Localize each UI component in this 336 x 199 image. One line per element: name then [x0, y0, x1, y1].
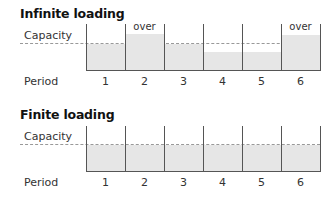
period-column-1: [86, 24, 125, 71]
period-number: 2: [125, 176, 164, 189]
period-number: 6: [281, 176, 320, 189]
period-label: Period: [24, 176, 58, 189]
period-number: 6: [281, 75, 320, 88]
period-column-4: [203, 126, 242, 172]
period-number: 3: [164, 75, 203, 88]
period-number: 2: [125, 75, 164, 88]
period-number: 1: [86, 176, 125, 189]
period-column-3: [164, 24, 203, 71]
period-label: Period: [24, 75, 58, 88]
period-number: 4: [203, 176, 242, 189]
period-column-2: [125, 126, 164, 172]
finite-loading-title: Finite loading: [20, 107, 114, 122]
period-column-1: [86, 126, 125, 172]
infinite-loading-title: Infinite loading: [20, 6, 124, 21]
over-label-2: over: [125, 21, 164, 32]
period-number: 1: [86, 75, 125, 88]
period-number: 5: [242, 176, 281, 189]
period-column-5: [242, 126, 281, 172]
capacity-label: Capacity: [24, 130, 72, 143]
period-column-5: [242, 24, 281, 71]
period-number: 4: [203, 75, 242, 88]
period-number: 3: [164, 176, 203, 189]
infinite-loading-panel: Infinite loading Capacity over over Peri…: [0, 0, 336, 100]
period-column-3: [164, 126, 203, 172]
period-column-6: [281, 126, 320, 172]
period-column-4: [203, 24, 242, 71]
finite-loading-chart: [86, 126, 320, 172]
infinite-loading-chart: over over: [86, 24, 320, 71]
over-label-6: over: [281, 21, 320, 32]
period-number: 5: [242, 75, 281, 88]
finite-loading-panel: Finite loading Capacity Period 1 2 3 4 5…: [0, 100, 336, 199]
capacity-label: Capacity: [24, 29, 72, 42]
